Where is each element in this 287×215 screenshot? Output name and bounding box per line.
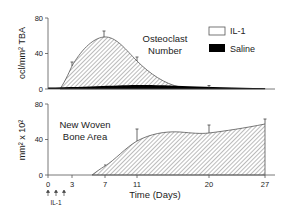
bottom-y-axis-label: mm² x 10² — [17, 120, 27, 161]
top-y-axis-label: ocl/mm² TBA — [17, 27, 27, 79]
il1-bone-area — [92, 124, 265, 175]
top-ytick-0: 0 — [39, 85, 43, 94]
legend: IL-1 Saline — [209, 26, 255, 54]
injection-arrows — [47, 190, 66, 196]
top-ytick-80: 80 — [35, 14, 43, 23]
top-y-ticks — [45, 18, 48, 89]
x-ticks — [48, 175, 265, 178]
legend-swatch-il1 — [209, 27, 225, 35]
bone-annotation-line2: Bone Area — [63, 131, 108, 142]
xtick-27: 27 — [261, 180, 269, 189]
legend-label-il1: IL-1 — [230, 26, 246, 36]
figure: 80 40 0 ocl/mm² TBA Osteoclast Number IL… — [0, 0, 287, 215]
bottom-ytick-0: 0 — [39, 171, 43, 180]
xtick-0: 0 — [46, 180, 50, 189]
legend-label-saline: Saline — [230, 44, 255, 54]
xtick-20: 20 — [205, 180, 213, 189]
bottom-ytick-40: 40 — [35, 135, 43, 144]
bottom-panel: 80 40 0 mm² x 10² New Woven Bone Area 0 … — [17, 100, 275, 207]
injection-label: IL-1 — [50, 199, 62, 206]
xtick-7: 7 — [103, 180, 107, 189]
top-panel: 80 40 0 ocl/mm² TBA Osteoclast Number IL… — [17, 14, 275, 94]
osteoclast-annotation-line1: Osteoclast — [143, 33, 188, 44]
bottom-ytick-80: 80 — [35, 100, 43, 109]
bone-annotation-line1: New Woven — [59, 119, 110, 130]
osteoclast-annotation-line2: Number — [148, 45, 182, 56]
x-axis-label: Time (Days) — [129, 189, 180, 200]
top-ytick-40: 40 — [35, 49, 43, 58]
bottom-y-ticks — [45, 104, 48, 175]
xtick-3: 3 — [70, 180, 74, 189]
legend-swatch-saline — [209, 44, 225, 52]
xtick-11: 11 — [133, 180, 141, 189]
